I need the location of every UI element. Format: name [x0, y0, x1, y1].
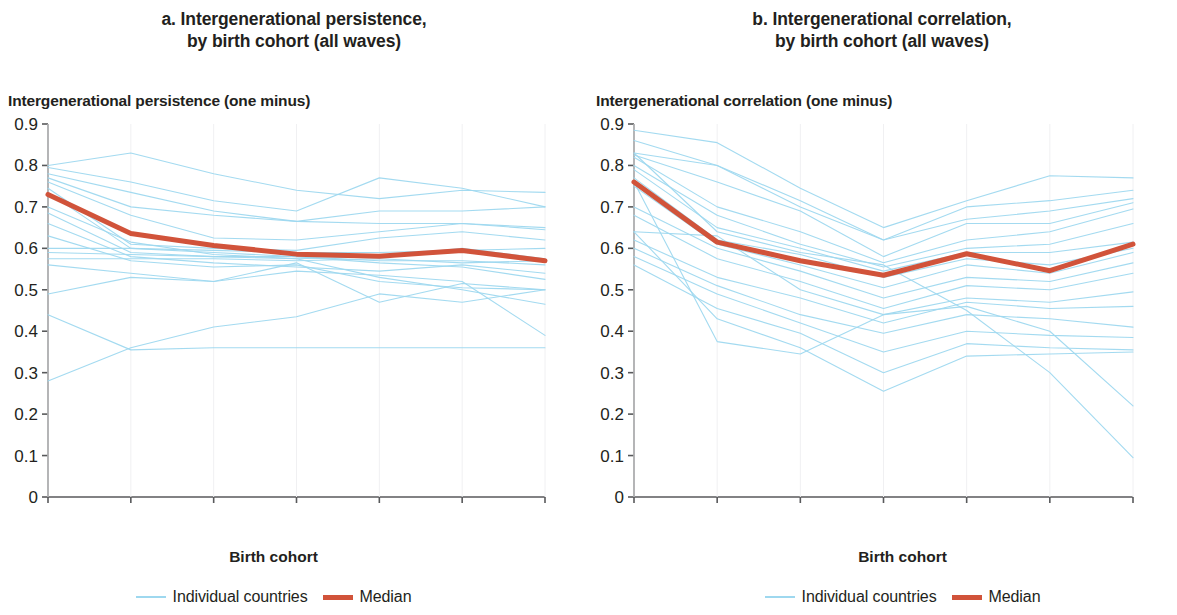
svg-text:0.1: 0.1: [14, 447, 38, 466]
svg-text:0.3: 0.3: [600, 364, 624, 383]
panel-b: b. Intergenerational correlation, by bir…: [588, 0, 1176, 615]
panel-a-y-axis-title: Intergenerational persistence (one minus…: [8, 92, 310, 110]
legend-item-median: Median: [323, 588, 412, 606]
panel-b-title: b. Intergenerational correlation, by bir…: [588, 8, 1176, 53]
legend-item-individual-countries: Individual countries: [765, 588, 937, 606]
legend-line-icon-median: [323, 595, 353, 600]
panel-a: a. Intergenerational persistence, by bir…: [0, 0, 588, 615]
panel-a-plot: 00.10.20.30.40.50.60.70.80.91930–391940–…: [0, 118, 588, 508]
legend-label-individual: Individual countries: [173, 588, 308, 606]
panel-b-y-axis-title: Intergenerational correlation (one minus…: [596, 92, 892, 110]
legend-label-median: Median: [989, 588, 1041, 606]
svg-text:0.1: 0.1: [600, 447, 624, 466]
svg-text:0: 0: [29, 488, 38, 507]
svg-text:0.9: 0.9: [14, 118, 38, 134]
legend-line-icon-median: [952, 595, 982, 600]
legend-line-icon-individual: [136, 596, 166, 598]
svg-text:0.5: 0.5: [600, 281, 624, 300]
legend-label-median: Median: [360, 588, 412, 606]
svg-text:0.6: 0.6: [600, 239, 624, 258]
svg-text:0: 0: [615, 488, 624, 507]
legend-item-individual-countries: Individual countries: [136, 588, 308, 606]
legend-label-individual: Individual countries: [802, 588, 937, 606]
svg-text:0.7: 0.7: [14, 198, 38, 217]
svg-text:0.2: 0.2: [600, 405, 624, 424]
panel-a-title: a. Intergenerational persistence, by bir…: [0, 8, 588, 53]
svg-text:0.5: 0.5: [14, 281, 38, 300]
panel-b-plot: 00.10.20.30.40.50.60.70.80.91930–391940–…: [588, 118, 1176, 508]
panel-a-x-axis-title: Birth cohort: [0, 548, 547, 566]
svg-text:0.7: 0.7: [600, 198, 624, 217]
panel-a-chart-svg: 00.10.20.30.40.50.60.70.80.91930–391940–…: [0, 118, 588, 508]
svg-text:0.9: 0.9: [600, 118, 624, 134]
svg-text:0.4: 0.4: [14, 322, 38, 341]
svg-text:0.4: 0.4: [600, 322, 624, 341]
svg-text:0.3: 0.3: [14, 364, 38, 383]
figure: a. Intergenerational persistence, by bir…: [0, 0, 1177, 615]
panel-b-chart-svg: 00.10.20.30.40.50.60.70.80.91930–391940–…: [588, 118, 1176, 508]
panel-a-legend: Individual countries Median: [0, 588, 547, 606]
panel-b-legend: Individual countries Median: [629, 588, 1176, 606]
legend-item-median: Median: [952, 588, 1041, 606]
svg-text:0.8: 0.8: [14, 156, 38, 175]
svg-text:0.8: 0.8: [600, 156, 624, 175]
svg-text:0.2: 0.2: [14, 405, 38, 424]
legend-line-icon-individual: [765, 596, 795, 598]
panel-b-x-axis-title: Birth cohort: [629, 548, 1176, 566]
svg-text:0.6: 0.6: [14, 239, 38, 258]
